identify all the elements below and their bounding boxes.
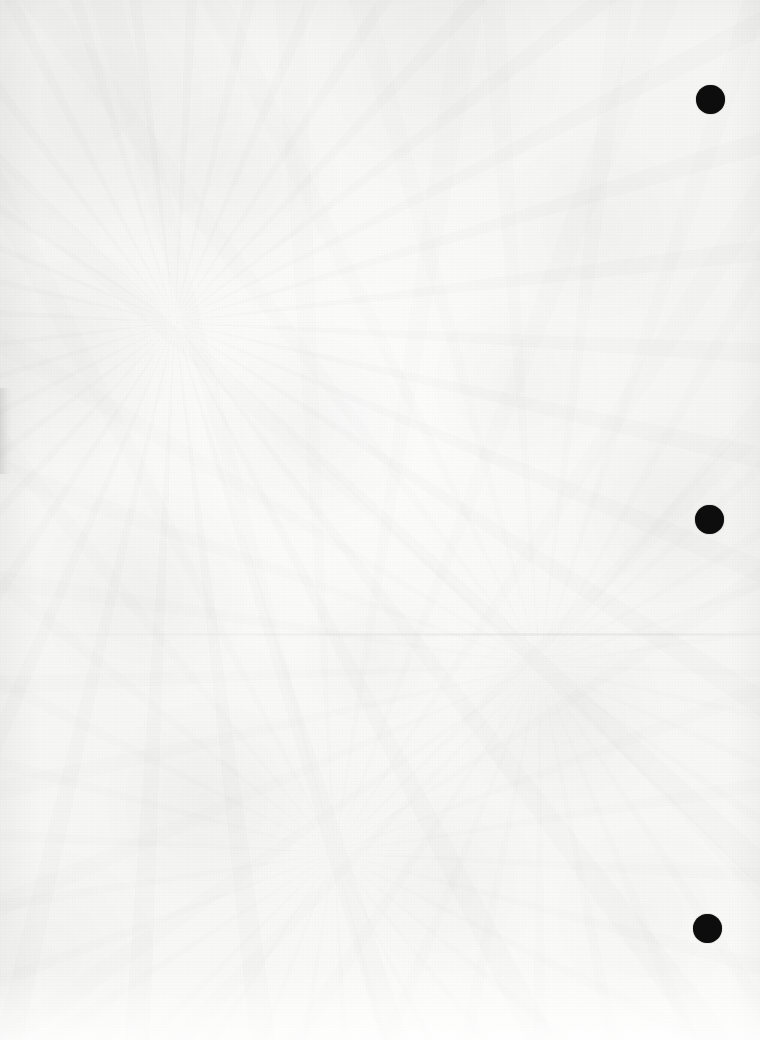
bottom-edge-highlight: [0, 970, 760, 1040]
left-edge-curl-shadow: [0, 388, 13, 474]
scanned-page: [0, 0, 760, 1040]
punch-hole-bottom: [693, 914, 722, 943]
punch-hole-middle: [695, 505, 724, 534]
page-content-area: [60, 70, 660, 970]
punch-hole-top: [696, 85, 725, 114]
